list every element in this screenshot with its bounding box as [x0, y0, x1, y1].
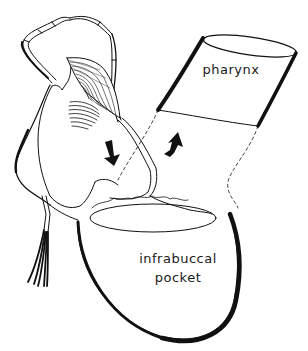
upward-arrow: [164, 132, 183, 157]
dashed-connector: [118, 110, 258, 208]
ant-head-diagram: [0, 0, 308, 351]
downward-arrow: [104, 140, 120, 166]
pharynx-label: pharynx: [196, 62, 266, 77]
infrabuccal-label: infrabuccal: [118, 251, 238, 266]
palp-brush: [28, 196, 50, 286]
pharynx-tube: [158, 31, 298, 126]
pocket-label: pocket: [118, 270, 238, 285]
secondary-muscle: [69, 101, 99, 129]
infrabuccal-pocket: [78, 196, 239, 341]
